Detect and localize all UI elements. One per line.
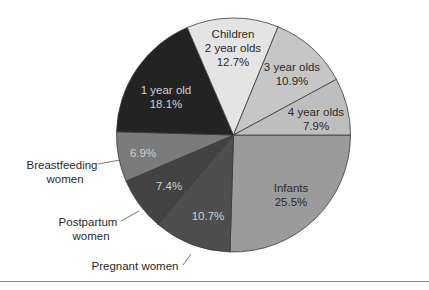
label-breastfeeding-pct: 6.9%	[130, 147, 156, 159]
label-three-year-pct: 10.9%	[276, 75, 309, 87]
label-infants-name: Infants	[274, 182, 309, 194]
pie-chart: Children 2 year olds 12.7% 3 year olds 1…	[0, 0, 429, 290]
label-pregnant-name: Pregnant women	[92, 260, 179, 272]
label-pregnant-pct: 10.7%	[192, 210, 225, 222]
label-postpartum-name-1: Postpartum	[59, 216, 118, 228]
leader-postpartum	[121, 211, 139, 221]
label-three-year-name: 3 year olds	[264, 61, 321, 73]
label-children-group: Children	[212, 28, 255, 40]
leader-breastfeeding	[98, 160, 120, 164]
label-two-year-pct: 12.7%	[217, 56, 250, 68]
label-postpartum-pct: 7.4%	[156, 180, 182, 192]
label-breastfeeding-name-2: women	[45, 173, 83, 185]
label-infants-pct: 25.5%	[275, 196, 308, 208]
label-four-year-name: 4 year olds	[288, 106, 345, 118]
label-one-year-pct: 18.1%	[150, 98, 183, 110]
label-one-year-name: 1 year old	[141, 84, 192, 96]
leader-pregnant	[183, 254, 191, 265]
bottom-divider	[0, 281, 429, 282]
label-four-year-pct: 7.9%	[303, 120, 329, 132]
label-postpartum-name-2: women	[71, 230, 109, 242]
label-breastfeeding-name-1: Breastfeeding	[27, 159, 98, 171]
label-two-year-name: 2 year olds	[205, 42, 262, 54]
